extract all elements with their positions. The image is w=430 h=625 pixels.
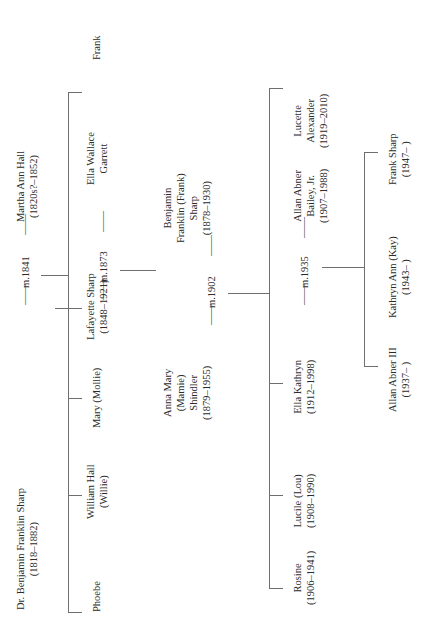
connector-g4-stub-ella-kathryn [269, 383, 283, 384]
person-surname: Bailey, Jr. [304, 169, 317, 223]
connector-g4-stub-lucette [269, 88, 283, 89]
person-frank: Frank [90, 36, 103, 61]
person-name: Frank [90, 36, 103, 61]
person-allan-abner-bailey-jr: Allan Abner Bailey, Jr. (1907–1988) [291, 169, 330, 223]
connector-g2-stub-frank [68, 92, 82, 93]
person-dates: (1937– ) [399, 347, 412, 412]
connector-g2-spine [68, 92, 69, 612]
person-dates: (1818–1882) [27, 488, 40, 610]
person-name: Benjamin [161, 173, 174, 243]
person-name: Kathryn Ann (Kay) [386, 236, 399, 318]
connector-g4-spine [269, 88, 270, 588]
person-dates: (1820s?–1852) [27, 151, 40, 222]
person-dates: (1919–2010) [317, 94, 330, 148]
person-name: Lucile (Lou) [291, 474, 304, 528]
connector-g4-stub-lucile [269, 495, 283, 496]
person-lucile-lou: Lucile (Lou) (1908–1990) [291, 474, 317, 528]
person-benjamin-franklin-sharp: Dr. Benjamin Franklin Sharp (1818–1882) [14, 488, 40, 610]
connector-g2-stub-lafayette [55, 308, 82, 309]
person-name: Anna Mary [161, 366, 174, 420]
person-dates: (1878–1930) [200, 173, 213, 243]
person-mary-mollie: Mary (Mollie) [90, 368, 103, 428]
person-name: Lafayette Sharp [84, 273, 97, 340]
person-name: William Hall [84, 464, 97, 519]
person-phoebe: Phoebe [90, 581, 103, 612]
person-name: Ella Wallace [84, 132, 97, 185]
person-name: Allan Abner [291, 169, 304, 223]
marriage-year-g4: m.1935 [298, 256, 311, 288]
person-name: Martha Ann Hall [14, 151, 27, 222]
person-martha-ann-hall: Martha Ann Hall (1820s?–1852) [14, 151, 40, 222]
person-surname: Shindler [187, 366, 200, 420]
person-dates: (1947– ) [399, 133, 412, 185]
person-name-2: Franklin (Frank) [174, 173, 187, 243]
person-ella-wallace-garrett: Ella Wallace Garrett [84, 132, 110, 185]
person-ella-kathryn: Ella Kathryn (1912–1998) [291, 360, 317, 414]
connector-g5-stub-allan-iii [364, 366, 378, 367]
connector-g5-stub-frank-sharp [364, 152, 378, 153]
connector-g4-stub-rosine [269, 588, 283, 589]
person-dates: (1879–1955) [200, 366, 213, 420]
person-dates: (1906–1941) [304, 551, 317, 605]
connector-g2-stub-mary [68, 398, 82, 399]
connector-g3-descent [228, 293, 270, 294]
person-rosine: Rosine (1906–1941) [291, 551, 317, 605]
person-anna-mary-shindler: Anna Mary (Mamie) Shindler (1879–1955) [161, 366, 213, 420]
person-nickname: (Willie) [97, 464, 110, 519]
person-kathryn-ann-kay: Kathryn Ann (Kay) (1943– ) [386, 236, 412, 318]
person-dates: (1908–1990) [304, 474, 317, 528]
person-surname: Alexander [304, 94, 317, 148]
person-dates: (1912–1998) [304, 360, 317, 414]
connector-g5-spine [364, 152, 365, 367]
marriage-year-g3: m.1902 [205, 276, 218, 308]
marriage-year-g2: m.1873 [97, 251, 110, 283]
person-lucette-alexander: Lucette Alexander (1919–2010) [291, 94, 330, 148]
connector-g1-descent [41, 275, 69, 276]
person-frank-sharp: Frank Sharp (1947– ) [386, 133, 412, 185]
connector-g2-stub-william [68, 495, 82, 496]
connector-g2-stub-phoebe [68, 612, 82, 613]
person-name: Mary (Mollie) [90, 368, 103, 428]
person-name: Dr. Benjamin Franklin Sharp [14, 488, 27, 610]
person-name: Ella Kathryn [291, 360, 304, 414]
person-surname: Garrett [97, 132, 110, 185]
person-benjamin-franklin-frank-sharp: Benjamin Franklin (Frank) Sharp (1878–19… [161, 173, 213, 243]
person-name: Rosine [291, 551, 304, 605]
person-name: Lucette [291, 94, 304, 148]
person-name: Phoebe [90, 581, 103, 612]
connector-g4-descent [322, 267, 365, 268]
connector-g2-descent [120, 270, 156, 271]
person-name: Frank Sharp [386, 133, 399, 185]
person-dates: (1943– ) [399, 236, 412, 318]
person-allan-abner-iii: Allan Abner III (1937– ) [386, 347, 412, 412]
person-name: Allan Abner III [386, 347, 399, 412]
marriage-dash-right-g2: —— [97, 211, 108, 232]
marriage-year-g1: m.1841 [19, 256, 32, 288]
person-nickname: (Mamie) [174, 366, 187, 420]
person-surname: Sharp [187, 173, 200, 243]
person-dates: (1907–1988) [317, 169, 330, 223]
genealogy-chart: Dr. Benjamin Franklin Sharp (1818–1882) … [0, 0, 430, 625]
person-william-hall: William Hall (Willie) [84, 464, 110, 519]
